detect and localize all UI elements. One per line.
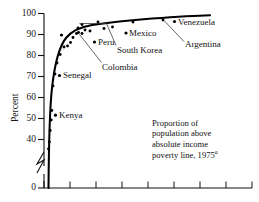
data-point	[48, 141, 51, 144]
data-point	[111, 26, 114, 29]
data-point-venezuela	[173, 20, 176, 23]
caption-line-3: absolute income	[152, 139, 218, 149]
label-senegal: Senegal	[63, 71, 92, 80]
data-point	[50, 119, 53, 122]
data-point-peru	[93, 40, 96, 43]
caption-line-2: population above	[152, 128, 218, 138]
ytick-label-80: 80	[16, 51, 36, 61]
data-point	[66, 45, 69, 48]
data-point	[84, 29, 87, 32]
y-axis-title: Percent	[11, 94, 21, 123]
data-point-mexico	[124, 31, 127, 34]
ytick-label-70: 70	[16, 72, 36, 82]
caption-line-4: poverty line, 1975a	[152, 149, 218, 160]
data-point	[63, 46, 66, 49]
data-point	[103, 27, 106, 30]
caption-line-4-text: poverty line, 1975	[152, 150, 215, 160]
data-point	[72, 36, 75, 39]
data-point	[50, 109, 53, 112]
data-point	[60, 33, 63, 36]
data-point-senegal	[58, 74, 61, 77]
label-mexico: Mexico	[129, 29, 157, 38]
data-point	[59, 53, 62, 56]
label-venezuela: Venezuela	[178, 18, 215, 27]
label-peru: Peru	[98, 38, 115, 47]
data-point	[132, 21, 135, 24]
data-point	[49, 129, 52, 132]
data-point	[77, 27, 80, 30]
label-south-korea: South Korea	[117, 46, 162, 55]
ytick-label-90: 90	[16, 30, 36, 40]
ytick-label-100: 100	[16, 9, 36, 19]
y-axis-break-symbol	[37, 152, 44, 173]
data-point	[81, 32, 84, 35]
data-point	[69, 41, 72, 44]
label-kenya: Kenya	[59, 111, 83, 120]
ytick-label-0: 0	[16, 183, 36, 193]
caption-superscript: a	[215, 149, 218, 155]
data-point	[89, 30, 92, 33]
chart-container: 100 90 80 70 60 50 40 0 Percent Venezuel…	[0, 0, 259, 202]
label-colombia: Colombia	[102, 63, 138, 72]
data-point	[54, 73, 57, 76]
x-axis-ticks	[44, 181, 252, 188]
data-point	[97, 21, 100, 24]
label-argentina: Argentina	[185, 40, 221, 49]
data-point	[47, 148, 50, 151]
ytick-label-40: 40	[16, 135, 36, 145]
caption-line-1: Proportion of	[152, 118, 218, 128]
data-point-kenya	[54, 114, 57, 117]
data-point	[56, 62, 59, 65]
data-point	[52, 85, 55, 88]
chart-caption: Proportion of population above absolute …	[152, 118, 218, 161]
data-point	[77, 31, 80, 34]
